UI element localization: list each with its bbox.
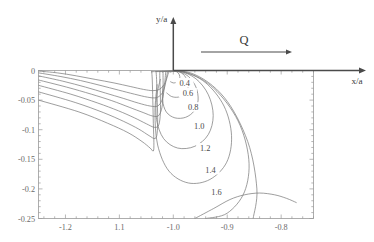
x-tick-labels: -1.21.1-1.0-0.9-0.8 — [59, 223, 288, 232]
x-axis-arrowhead — [359, 68, 366, 74]
x-tick-label: -1.2 — [59, 223, 72, 232]
contour-label-0.4: 0.4 — [179, 79, 190, 88]
contour-label-0.6: 0.6 — [183, 89, 193, 98]
plot-frame — [39, 71, 314, 219]
contour-label-0.8: 0.8 — [188, 103, 198, 112]
plot-frame-rect — [39, 71, 314, 219]
contour-label-1.6: 1.6 — [211, 188, 221, 197]
y-tick-label: -0.1 — [22, 126, 35, 135]
overlay-axes: y/ax/a — [156, 14, 366, 86]
y-tick-label: -0.25 — [18, 215, 35, 224]
y-tick-label: 0 — [31, 67, 35, 76]
flux-arrow-head — [286, 49, 292, 54]
contour-figure: -1.21.1-1.0-0.9-0.80-0.05-0.1-0.15-0.2-0… — [0, 0, 374, 242]
flux-annotation: Q — [201, 33, 292, 55]
y-tick-label: -0.15 — [18, 155, 35, 164]
contour-left-branch — [39, 72, 164, 117]
y-tick-label: -0.2 — [22, 185, 35, 194]
y-tick-label: -0.05 — [18, 96, 35, 105]
contour-curves — [39, 71, 297, 219]
y-tick-labels: 0-0.05-0.1-0.15-0.2-0.25 — [18, 67, 35, 224]
contour-left-branch — [39, 71, 169, 91]
contour-label-1.0: 1.0 — [194, 122, 204, 131]
contour-plot-svg: -1.21.1-1.0-0.9-0.80-0.05-0.1-0.15-0.2-0… — [0, 0, 374, 242]
x-tick-label: -0.9 — [221, 223, 234, 232]
contour-left-branch — [39, 72, 166, 107]
x-tick-label: -0.8 — [275, 223, 288, 232]
x-tick-label: 1.1 — [114, 223, 124, 232]
x-axis-name-label: x/a — [351, 76, 362, 86]
y-axis-arrowhead — [170, 17, 176, 24]
contour-label-1.2: 1.2 — [200, 144, 210, 153]
contour-left-branch — [39, 72, 154, 152]
contour-label-1.4: 1.4 — [205, 166, 216, 175]
contour-level-0.8 — [39, 71, 199, 119]
x-tick-label: -1.0 — [167, 223, 180, 232]
y-axis-name-label: y/a — [156, 14, 167, 24]
axis-ticks — [39, 71, 314, 219]
flux-label-Q: Q — [239, 33, 248, 47]
